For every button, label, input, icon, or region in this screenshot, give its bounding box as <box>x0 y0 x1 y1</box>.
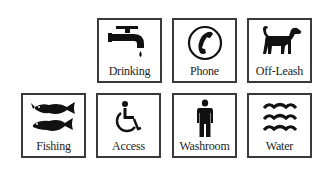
sign-phone: Phone <box>172 18 237 83</box>
sign-label: Washroom <box>174 139 235 154</box>
sign-label: Off-Leash <box>249 64 310 79</box>
telephone-icon <box>186 24 224 62</box>
sign-label: Drinking <box>99 64 160 79</box>
sign-label: Fishing <box>23 139 84 154</box>
sign-off-leash: Off-Leash <box>247 18 312 83</box>
dog-icon <box>257 24 303 62</box>
fish-icon <box>31 99 77 137</box>
sign-access: Access <box>96 93 161 158</box>
sign-label: Access <box>98 139 159 154</box>
sign-drinking: Drinking <box>97 18 162 83</box>
sign-label: Water <box>249 139 310 154</box>
sign-fishing: Fishing <box>21 93 86 158</box>
sign-label: Phone <box>174 64 235 79</box>
sign-washroom: Washroom <box>172 93 237 158</box>
water-faucet-icon <box>108 24 152 60</box>
person-icon <box>193 99 217 139</box>
wheelchair-icon <box>111 99 147 137</box>
sign-water: Water <box>247 93 312 158</box>
waves-icon <box>260 99 300 135</box>
